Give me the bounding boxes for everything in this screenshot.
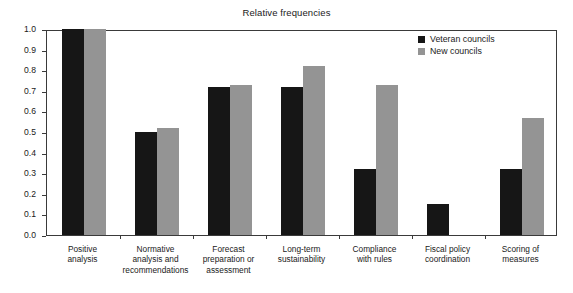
x-axis-tick-mark <box>193 235 194 239</box>
y-axis-tick-label: 0.6 <box>24 106 36 116</box>
chart-legend: Veteran councilsNew councils <box>418 34 495 56</box>
x-axis-category-label-line: Forecast <box>188 244 269 254</box>
y-axis-tick-mark <box>42 236 46 237</box>
bar-new-councils <box>303 66 325 235</box>
relative-frequencies-bar-chart: Relative frequencies 1.00.90.80.70.60.50… <box>0 0 573 293</box>
y-axis-tick-label: 0.3 <box>24 168 36 178</box>
plot-area <box>46 30 557 236</box>
y-axis-tick-label: 0.2 <box>24 189 36 199</box>
bar-veteran-councils <box>62 29 84 235</box>
x-axis-category-label-line: Normative <box>115 244 196 254</box>
bar-new-councils <box>157 128 179 235</box>
x-axis-category-label: Forecastpreparation orassessment <box>188 244 269 275</box>
y-axis-tick-label: 0.8 <box>24 65 36 75</box>
legend-swatch-icon <box>418 48 425 55</box>
bar-veteran-councils <box>135 132 157 235</box>
x-axis-category-label-line: with rules <box>334 254 415 264</box>
bar-veteran-councils <box>500 169 522 235</box>
legend-entry[interactable]: New councils <box>418 46 495 56</box>
legend-entry-label: Veteran councils <box>430 34 495 44</box>
legend-swatch-icon <box>418 36 425 43</box>
x-axis-category-label: Positiveanalysis <box>42 244 123 265</box>
bar-veteran-councils <box>208 87 230 235</box>
legend-entry[interactable]: Veteran councils <box>418 34 495 44</box>
x-axis-tick-mark <box>485 235 486 239</box>
chart-title: Relative frequencies <box>0 7 573 18</box>
y-axis-tick-label: 1.0 <box>24 24 36 34</box>
y-axis-tick-label: 0.7 <box>24 86 36 96</box>
x-axis-category-label: Compliancewith rules <box>334 244 415 265</box>
x-axis-category-label: Normativeanalysis andrecommendations <box>115 244 196 275</box>
y-axis-tick-label: 0.4 <box>24 148 36 158</box>
x-axis-category-label-line: assessment <box>188 265 269 275</box>
bar-veteran-councils <box>281 87 303 235</box>
x-axis-tick-mark <box>266 235 267 239</box>
bar-new-councils <box>84 29 106 235</box>
x-axis-category-label-line: Fiscal policy <box>407 244 488 254</box>
x-axis-tick-mark <box>120 235 121 239</box>
y-axis-tick-label: 0.9 <box>24 45 36 55</box>
bar-new-councils <box>230 85 252 235</box>
bar-veteran-councils <box>354 169 376 235</box>
x-axis-category-label: Fiscal policycoordination <box>407 244 488 265</box>
x-axis-tick-mark <box>339 235 340 239</box>
x-axis-tick-mark <box>412 235 413 239</box>
x-axis-category-label-line: sustainability <box>261 254 342 264</box>
x-axis-category-label-line: recommendations <box>115 265 196 275</box>
x-axis-category-label-line: measures <box>480 254 561 264</box>
x-axis-category-label: Scoring ofmeasures <box>480 244 561 265</box>
x-axis-category-label-line: Scoring of <box>480 244 561 254</box>
y-axis-tick-label: 0.0 <box>24 230 36 240</box>
x-axis-category-label-line: analysis <box>42 254 123 264</box>
x-axis-category-label-line: Long-term <box>261 244 342 254</box>
x-axis-category-label-line: preparation or <box>188 254 269 264</box>
y-axis-tick-label: 0.1 <box>24 209 36 219</box>
legend-entry-label: New councils <box>430 46 482 56</box>
x-axis-category-label-line: Compliance <box>334 244 415 254</box>
x-axis-category-label: Long-termsustainability <box>261 244 342 265</box>
x-axis-category-label-line: coordination <box>407 254 488 264</box>
y-axis-tick-label: 0.5 <box>24 127 36 137</box>
bar-veteran-councils <box>427 204 449 235</box>
x-axis-category-label-line: analysis and <box>115 254 196 264</box>
x-axis-category-label-line: Positive <box>42 244 123 254</box>
bar-new-councils <box>376 85 398 235</box>
bar-new-councils <box>522 118 544 235</box>
